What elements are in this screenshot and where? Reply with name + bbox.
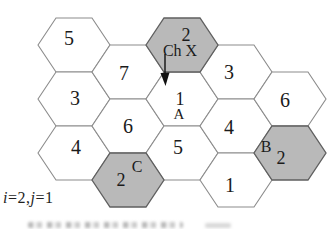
- cell-tag: C: [132, 158, 143, 175]
- cell-tag: B: [261, 138, 272, 155]
- reuse-index-label: i=2,j=1: [3, 189, 53, 207]
- cropped-caption-smudge-2: [205, 223, 231, 228]
- cell-number: 1: [225, 174, 235, 196]
- cell-number: 6: [123, 115, 133, 137]
- cell-number: 5: [173, 136, 183, 158]
- cell-number: 4: [224, 116, 234, 138]
- cell-tag: Ch X: [163, 42, 198, 59]
- cell-tag: A: [174, 106, 185, 122]
- cell-number: 7: [119, 62, 129, 84]
- cell-number: 3: [224, 61, 234, 83]
- cell-number: 6: [280, 89, 290, 111]
- cropped-caption-smudge: [28, 222, 183, 228]
- cell-number: 4: [71, 136, 81, 158]
- reuse-index-part: =2,: [8, 189, 31, 206]
- cell-number: 3: [70, 87, 80, 109]
- reuse-index-part: =1: [35, 189, 53, 206]
- cell-number: 2: [277, 148, 286, 168]
- cell-number: 2: [117, 170, 126, 190]
- cell-number: 5: [64, 27, 74, 49]
